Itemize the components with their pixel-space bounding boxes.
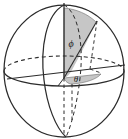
spherical-coordinates-svg: ϕ θ bbox=[0, 0, 128, 139]
theta-angle-label: θ bbox=[74, 74, 79, 84]
projection-along-equator bbox=[90, 69, 101, 73]
meridian-front-arc bbox=[43, 5, 66, 137]
origin-tick bbox=[58, 78, 64, 86]
theta-wedge bbox=[64, 74, 101, 84]
phi-angle-label: ϕ bbox=[68, 38, 73, 49]
spherical-coordinates-figure: ϕ θ bbox=[0, 0, 128, 139]
theta-wedge-group bbox=[64, 74, 101, 84]
